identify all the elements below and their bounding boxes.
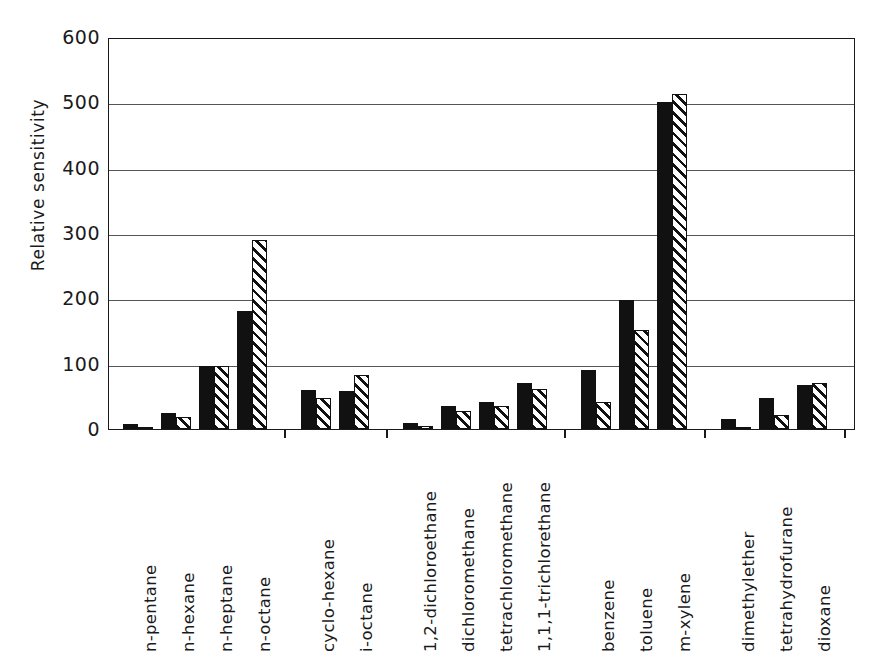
x-axis-label: tetrachloromethane	[499, 482, 516, 652]
bars-layer	[109, 39, 854, 429]
plot-area	[108, 38, 855, 430]
x-axis-tick	[564, 429, 566, 438]
bar-chart: Relative sensitivity 0100200300400500600…	[0, 0, 883, 660]
bar	[797, 385, 812, 429]
x-axis-label: 1,1,1-trichlorethane	[537, 482, 554, 652]
bar	[123, 424, 138, 429]
x-axis-category-labels: n-pentanen-hexanen-heptanen-octanecyclo-…	[108, 440, 855, 660]
x-axis-label: tetrahydrofurane	[779, 506, 796, 652]
x-axis-label: n-heptane	[219, 565, 236, 652]
bar	[456, 411, 471, 429]
x-axis-label: dimethylether	[741, 532, 758, 652]
bar	[339, 391, 354, 429]
bar	[619, 300, 634, 429]
x-axis-label: 1,2-dichloroethane	[423, 491, 440, 652]
bar	[301, 390, 316, 429]
bar	[161, 413, 176, 429]
bar	[494, 406, 509, 429]
bar	[736, 427, 751, 429]
bar	[418, 426, 433, 429]
x-axis-tick	[386, 429, 388, 438]
bar	[517, 383, 532, 429]
y-tick-label: 100	[48, 355, 100, 374]
x-axis-label: dioxane	[817, 585, 834, 652]
bar	[138, 427, 153, 429]
bar	[581, 370, 596, 429]
bar	[214, 366, 229, 429]
y-tick-label: 300	[48, 224, 100, 243]
x-axis-label: i-octane	[359, 582, 376, 652]
x-axis-tick	[284, 429, 286, 438]
bar	[774, 415, 789, 429]
bar	[672, 94, 687, 429]
x-axis-tick	[844, 429, 846, 438]
x-axis-label: toluene	[639, 588, 656, 652]
bar	[237, 311, 252, 429]
bar	[252, 240, 267, 429]
bar	[403, 423, 418, 429]
bar	[176, 417, 191, 429]
y-axis-tick-labels: 0100200300400500600	[42, 0, 100, 440]
bar	[812, 383, 827, 429]
y-tick-label: 400	[48, 159, 100, 178]
bar	[199, 366, 214, 429]
x-axis-tick	[704, 429, 706, 438]
y-tick-label: 600	[48, 28, 100, 47]
bar	[532, 389, 547, 430]
bar	[759, 398, 774, 429]
bar	[441, 406, 456, 429]
x-axis-label: n-hexane	[181, 572, 198, 652]
y-tick-label: 200	[48, 289, 100, 308]
y-tick-label: 0	[48, 420, 100, 439]
y-tick-label: 500	[48, 93, 100, 112]
bar	[479, 402, 494, 429]
bar	[657, 102, 672, 429]
x-axis-label: n-pentane	[143, 565, 160, 652]
bar	[316, 398, 331, 429]
x-axis-label: benzene	[601, 579, 618, 652]
x-axis-label: n-octane	[257, 577, 274, 652]
x-axis-label: cyclo-hexane	[321, 539, 338, 652]
bar	[354, 375, 369, 429]
bar	[596, 402, 611, 429]
x-axis-label: dichloromethane	[461, 508, 478, 652]
bar	[721, 419, 736, 429]
bar	[634, 330, 649, 429]
x-axis-label: m-xylene	[677, 573, 694, 652]
